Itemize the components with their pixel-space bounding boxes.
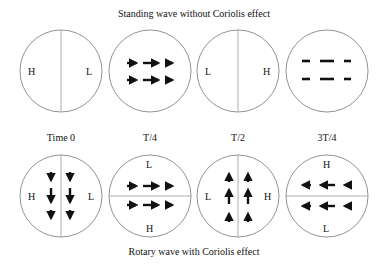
high-label: H [28, 66, 35, 77]
low-label: L [146, 159, 152, 170]
low-label: L [88, 191, 94, 202]
rotary-circle-t4: L H [109, 155, 191, 237]
wave-diagram: H L L H H L [0, 0, 388, 266]
rotary-circle-time0: H L [20, 155, 102, 237]
northward-arrows [229, 174, 248, 222]
low-label: L [86, 66, 92, 77]
southward-arrows [51, 172, 70, 218]
standing-circle-time0: H L [20, 30, 102, 112]
westward-arrows [302, 61, 351, 79]
high-label: H [146, 223, 153, 234]
high-label: H [264, 191, 271, 202]
rotary-circle-3t4: H L [286, 155, 368, 237]
standing-circle-t2: L H [197, 30, 279, 112]
high-label: H [263, 66, 270, 77]
eastward-arrows [127, 186, 172, 205]
low-label: L [205, 191, 211, 202]
eastward-arrows [127, 63, 172, 80]
high-label: H [323, 159, 330, 170]
westward-arrows [303, 185, 352, 206]
high-label: H [28, 191, 35, 202]
low-label: L [323, 223, 329, 234]
low-label: L [205, 66, 211, 77]
standing-circle-t4 [109, 30, 191, 112]
rotary-circle-t2: L H [197, 155, 279, 237]
standing-circle-3t4 [286, 30, 368, 112]
